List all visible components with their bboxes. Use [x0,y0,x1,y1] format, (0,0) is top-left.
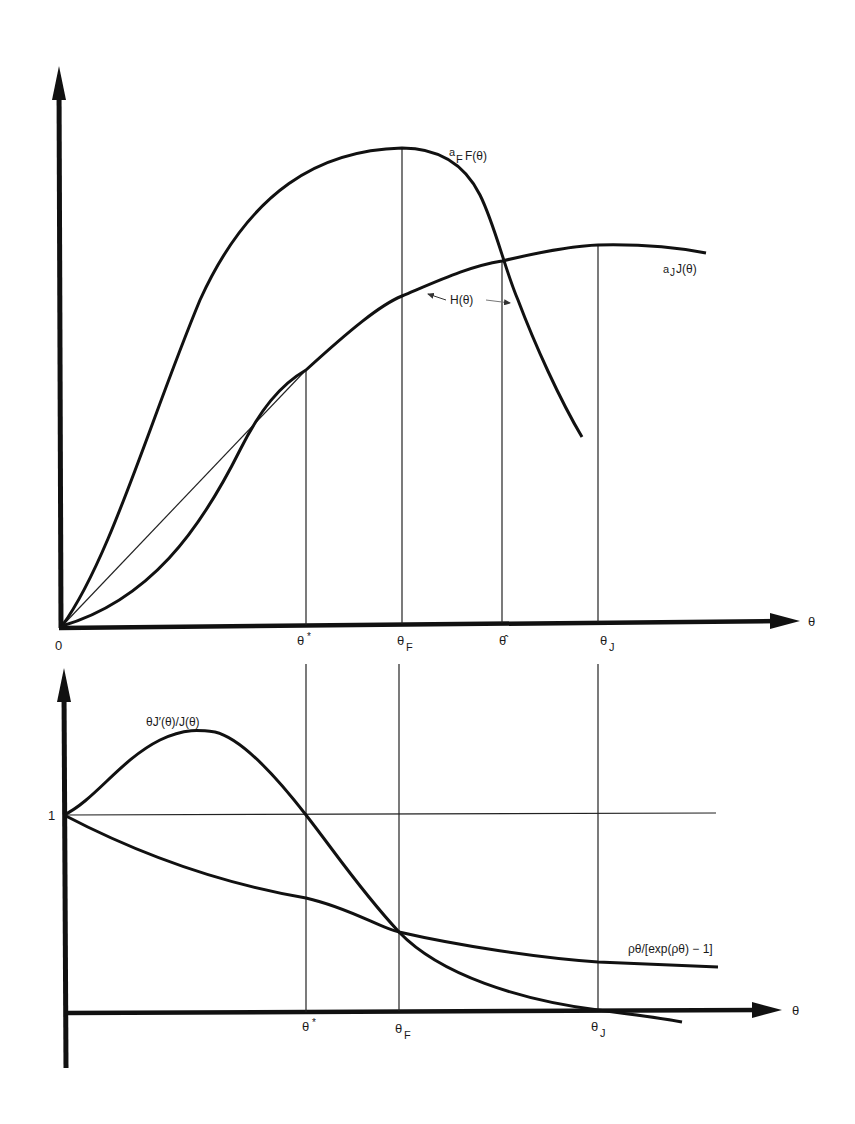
bottom-chart: 1 θ θ * θ F θ J θJ′(θ)/J(θ) ρθ/[exp(ρθ) … [48,664,799,1068]
reference-line-one [64,813,716,815]
svg-text:θ: θ [397,633,404,648]
bottom-x-axis [64,1010,760,1013]
svg-text:F(θ): F(θ) [465,149,487,163]
svg-text:θ: θ [395,1021,402,1036]
top-y-axis [59,80,61,628]
svg-text:J(θ): J(θ) [676,262,697,276]
svg-text:θ: θ [591,1019,598,1034]
svg-text:a: a [663,263,670,275]
svg-text:J: J [600,1027,606,1039]
top-y-axis-arrow-icon [52,66,66,100]
H-arrow-left-icon [428,294,446,300]
origin-label: 0 [55,638,62,653]
top-chart: 0 θ θ * θ F θ̂ θ J a F F(θ) a J J(θ) H(θ… [52,66,815,653]
label-rho: ρθ/[exp(ρθ) − 1] [628,942,713,956]
label-aJ-J: a J J(θ) [663,262,697,278]
top-x-axis [59,621,780,628]
tick-theta-star: θ * [297,631,311,648]
svg-text:H(θ): H(θ) [450,293,473,307]
bottom-x-axis-label: θ [792,1003,799,1018]
bottom-x-axis-arrow-icon [752,1002,782,1018]
svg-text:*: * [312,1017,316,1028]
figure: 0 θ θ * θ F θ̂ θ J a F F(θ) a J J(θ) H(θ… [0,0,855,1124]
svg-text:J: J [670,267,675,278]
tick-theta-hat: θ̂ [499,633,509,648]
svg-text:F: F [404,1029,411,1041]
svg-text:J: J [609,641,615,653]
top-x-axis-label: θ [808,614,815,629]
y-tick-one: 1 [48,808,55,823]
curve-aF-F [62,148,582,626]
curve-aJ-J [62,245,706,626]
svg-text:F: F [406,641,413,653]
tick-theta-j: θ J [600,633,615,653]
tick-theta-f-bottom: θ F [395,1021,411,1041]
label-elasticity: θJ′(θ)/J(θ) [146,715,200,729]
tick-theta-star-bottom: θ * [302,1017,316,1034]
label-H: H(θ) [428,293,510,307]
svg-text:a: a [449,146,456,158]
svg-text:θ: θ [297,633,304,648]
H-arrow-right-icon [486,300,510,303]
tick-theta-f: θ F [397,633,413,653]
svg-text:*: * [307,631,311,642]
curve-elasticity [64,730,682,1022]
curve-rho [64,815,718,967]
tangent-line [62,372,304,626]
bottom-y-axis-arrow-icon [57,668,71,702]
svg-text:F: F [456,153,463,165]
svg-text:θ: θ [302,1019,309,1034]
top-x-axis-arrow-icon [770,613,800,629]
svg-text:θ: θ [600,633,607,648]
tick-theta-j-bottom: θ J [591,1019,606,1039]
